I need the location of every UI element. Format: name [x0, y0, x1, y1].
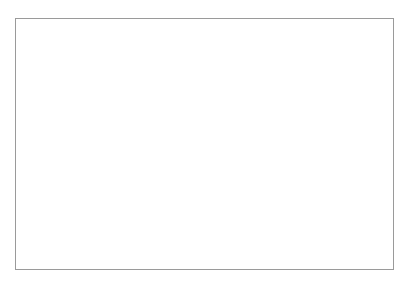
chart-frame	[15, 18, 394, 270]
chart-container: 0500010000150002000025000300003500040000…	[0, 0, 407, 287]
